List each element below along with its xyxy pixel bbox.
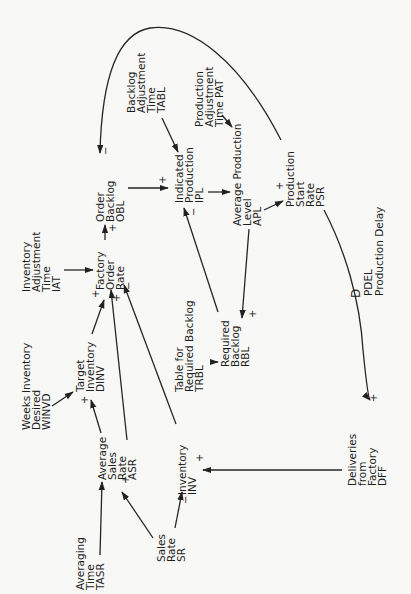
sign-psr-dff: + — [368, 394, 379, 402]
svg-text:TABL: TABL — [155, 87, 167, 114]
node-dinv: Target Inventory DINV — [74, 342, 106, 393]
svg-text:WINVD: WINVD — [40, 393, 52, 430]
link-inv-for — [124, 285, 176, 424]
node-rbl: Required Backlog RBL — [219, 320, 251, 367]
link-tabl-ipl — [162, 118, 178, 152]
node-ipl: Indicated Production IPL — [173, 147, 205, 203]
sign-psr-obl: − — [100, 147, 111, 155]
svg-text:DINV: DINV — [94, 365, 106, 392]
sign-apl-rbl: + — [247, 310, 258, 318]
node-iat: Inventory Adjustment Time IAT — [20, 232, 62, 293]
svg-text:RBL: RBL — [239, 347, 251, 367]
sign-dff-inv: + — [194, 454, 205, 462]
node-factory-order-rate: Factory Order Rate — [94, 252, 126, 290]
node-apl: Average Production Level APL — [231, 124, 263, 226]
link-psr-dff-delay — [324, 210, 370, 400]
svg-text:OBL: OBL — [114, 201, 126, 222]
svg-text:Inventory: Inventory — [20, 343, 32, 393]
sign-for-obl: + — [107, 224, 118, 232]
svg-text:APL: APL — [251, 206, 263, 226]
link-apl-rbl — [242, 229, 249, 318]
svg-text:DFF: DFF — [376, 466, 388, 486]
node-pat: Production Adjustment Time PAT — [193, 67, 225, 128]
link-apl-psr — [264, 201, 283, 210]
link-asr-for — [111, 290, 127, 440]
sign-asr-dinv: + — [79, 396, 90, 404]
sign-sr-inv: − — [180, 496, 191, 504]
node-dff: Deliveries from Factory DFF — [346, 434, 388, 486]
link-tasr-asr — [100, 482, 102, 555]
link-dinv-for — [92, 300, 104, 334]
sign-obl-ipl: + — [157, 176, 168, 184]
sign-asr-for: + — [111, 294, 122, 302]
node-tabl: Backlog Adjustment Time TABL — [125, 53, 167, 114]
svg-text:PSR: PSR — [314, 187, 326, 207]
diagram-svg: D + − + + + + − + + − + + − + Averaging … — [0, 0, 411, 594]
node-psr: Production Start Rate PSR — [284, 151, 326, 207]
node-tasr: Averaging Time TASR — [74, 537, 106, 591]
svg-text:Production Delay: Production Delay — [373, 207, 385, 296]
svg-text:INV: INV — [186, 476, 198, 495]
link-sr-asr — [122, 492, 153, 538]
svg-text:IPL: IPL — [193, 188, 205, 203]
node-obl: Order Backlog OBL — [94, 181, 126, 223]
svg-text:TASR: TASR — [94, 563, 106, 591]
svg-text:IAT: IAT — [50, 276, 62, 292]
svg-text:TRBL: TRBL — [193, 365, 205, 393]
node-asr: Average Sales Rate ASR — [96, 437, 138, 480]
causal-loop-diagram: D + − + + + + − + + − + + − + Averaging … — [0, 0, 411, 594]
node-inv: Inventory INV — [176, 445, 198, 495]
link-asr-dinv — [91, 400, 101, 433]
node-trbl: Table for Required Backlog TRBL — [173, 300, 205, 393]
sign-rbl-ipl: − — [188, 208, 199, 216]
link-winvd-dinv — [52, 392, 73, 406]
svg-text:SR: SR — [175, 548, 187, 562]
node-winvd: Weeks Desired WINVD Inventory — [20, 343, 52, 430]
delay-symbol: D — [349, 289, 363, 298]
svg-text:Time PAT: Time PAT — [213, 79, 225, 128]
node-sr: Sales Rate SR — [155, 534, 187, 562]
svg-text:Rate: Rate — [114, 266, 126, 290]
link-rbl-ipl — [184, 208, 218, 312]
svg-text:ASR: ASR — [126, 459, 138, 480]
node-pdel: PDEL Production Delay — [362, 207, 385, 296]
